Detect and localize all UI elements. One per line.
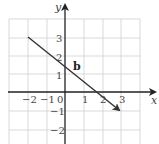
- y-axis-label: y: [54, 1, 62, 14]
- y-tick-label: 1: [56, 70, 62, 81]
- y-tick-label: −2: [50, 125, 65, 136]
- x-tick-label: 3: [119, 94, 125, 105]
- x-tick-label: 0: [57, 94, 63, 105]
- x-tick-label: −2: [22, 94, 37, 105]
- x-axis-label: x: [151, 94, 158, 107]
- x-tick-label: −1: [40, 94, 55, 105]
- coordinate-graph: x y −2 −1 0 1 2 3 3 2 1 −1 −2 b: [0, 0, 159, 144]
- y-tick-label: 3: [56, 33, 62, 44]
- x-tick-label: 1: [82, 94, 88, 105]
- y-tick-label: −1: [50, 106, 65, 117]
- line-b-label: b: [73, 60, 81, 73]
